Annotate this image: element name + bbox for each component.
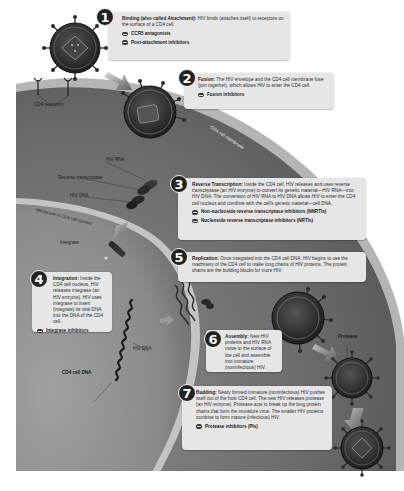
- step-5-replication: Replication: Once integrated into the CD…: [178, 252, 366, 282]
- step-7-number: 7: [178, 384, 196, 402]
- drug-class-nnrti: Non-nucleoside reverse transcriptase inh…: [192, 209, 360, 215]
- drug-class-integrase: Integrase inhibitors: [37, 328, 107, 334]
- reverse-transcriptase-label: Reverse transcriptase: [58, 175, 103, 180]
- drug-class-post-attachment: Post-attachment inhibitors: [122, 40, 284, 46]
- cd4-cell-dna-label: CD4 cell DNA: [62, 370, 91, 375]
- integrase-label: Integrase: [60, 240, 79, 245]
- protease-label: Protease: [338, 334, 357, 339]
- pill-icon: [198, 93, 204, 98]
- step-2-fusion: Fusion: The HIV envelope and the CD4 cel…: [184, 73, 334, 109]
- step-3-number: 3: [170, 175, 188, 193]
- hiv-virus-mature-icon: [333, 419, 391, 477]
- pill-icon: [192, 210, 198, 215]
- drug-class-fusion: Fusion inhibitors: [198, 92, 328, 98]
- step-1-binding: Binding (also called Attachment): HIV bi…: [108, 12, 290, 60]
- step-1-number: 1: [96, 8, 114, 26]
- step-3-reverse-transcription: Reverse Transcription: Inside the CD4 ce…: [178, 178, 366, 240]
- pill-icon: [122, 32, 128, 37]
- step-7-budding: Budding: Newly formed immature (noninfec…: [182, 386, 332, 450]
- drug-class-ccr5: CCR5 antagonists: [122, 31, 284, 37]
- hiv-dna-nucleus-label: HIV DNA: [133, 346, 152, 351]
- hiv-lifecycle-diagram: CD4 cell membrane Membrane of CD4 cell n…: [0, 0, 404, 491]
- pill-icon: [37, 329, 43, 334]
- cd4-receptors-label: CD4 receptors: [34, 102, 64, 107]
- drug-class-protease: Protease inhibitors (PIs): [196, 424, 326, 430]
- step-6-number: 6: [204, 330, 222, 348]
- step-4-number: 4: [30, 270, 48, 288]
- drug-class-nrti: Nucleoside reverse transcriptase inhibit…: [192, 218, 360, 224]
- hiv-virus-binding-icon: [42, 15, 108, 81]
- pill-icon: [196, 424, 202, 429]
- hiv-dna-label: HIV DNA: [70, 193, 89, 198]
- pill-icon: [122, 40, 128, 45]
- step-5-number: 5: [170, 248, 188, 266]
- step-2-number: 2: [178, 69, 196, 87]
- hiv-rna-label: HIV RNA: [106, 157, 125, 162]
- pill-icon: [192, 219, 198, 224]
